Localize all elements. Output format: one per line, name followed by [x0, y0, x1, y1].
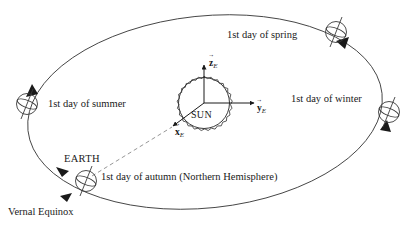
z-axis-letter: z	[209, 59, 213, 69]
label-1st-day-of-winter: 1st day of winter	[291, 94, 362, 105]
label-sun: SUN	[191, 110, 212, 120]
label-z-axis: zE	[209, 59, 218, 70]
label-x-axis: xE	[175, 128, 184, 139]
label-1st-day-of-autumn: 1st day of autumn (Northern Hemisphere)	[101, 172, 277, 183]
label-vernal-equinox: Vernal Equinox	[8, 207, 74, 218]
label-earth: EARTH	[64, 154, 100, 165]
y-axis-letter: y	[257, 104, 262, 114]
label-1st-day-of-spring: 1st day of spring	[227, 30, 297, 41]
sun-axes	[173, 65, 254, 126]
x-axis-subscript: E	[180, 131, 184, 139]
label-1st-day-of-summer: 1st day of summer	[48, 99, 126, 110]
arrowhead-toward-autumn	[56, 167, 69, 177]
earth-winter	[378, 97, 400, 127]
earth-autumn	[75, 166, 97, 196]
z-axis-subscript: E	[213, 62, 217, 70]
earth-sun-sight-line	[92, 127, 172, 176]
label-y-axis: yE	[257, 104, 266, 115]
x-axis-letter: x	[175, 128, 180, 138]
vernal-equinox-pointer	[60, 193, 72, 202]
orbit-diagram: 1st day of summer 1st day of spring 1st …	[0, 0, 417, 228]
y-axis-subscript: E	[262, 107, 266, 115]
